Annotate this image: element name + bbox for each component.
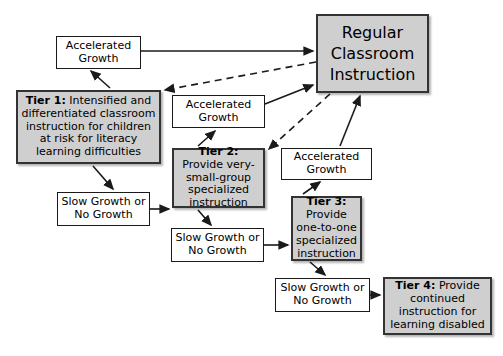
edge-tier3-to-accel3 bbox=[303, 182, 320, 194]
node-tier-2-label: Tier 2: bbox=[198, 145, 238, 158]
node-slow-growth-3-label: Slow Growth or No Growth bbox=[276, 282, 369, 308]
edge-regular-to-tier1 bbox=[165, 62, 316, 90]
edge-tier3-to-slow3 bbox=[310, 262, 325, 275]
edge-tier1-to-slow1 bbox=[93, 166, 113, 189]
node-regular-classroom-label: Regular Classroom Instruction bbox=[318, 22, 427, 85]
node-accelerated-growth-1-label: Accelerated Growth bbox=[57, 40, 140, 66]
node-slow-growth-2-label: Slow Growth or No Growth bbox=[172, 232, 263, 258]
node-tier-4[interactable]: Tier 4: Provide continued instruction fo… bbox=[383, 277, 492, 335]
node-tier-2[interactable]: Tier 2: Provide very-small-group special… bbox=[172, 148, 265, 208]
node-tier-3-label: Tier 3: bbox=[306, 195, 346, 208]
node-accelerated-growth-3-label: Accelerated Growth bbox=[282, 151, 371, 177]
node-tier-1[interactable]: Tier 1: Intensified and differentiated c… bbox=[16, 90, 161, 164]
node-regular-classroom-instruction[interactable]: Regular Classroom Instruction bbox=[316, 14, 429, 93]
node-tier-2-body: Provide very-small-group specialized ins… bbox=[182, 158, 254, 210]
node-accelerated-growth-2[interactable]: Accelerated Growth bbox=[172, 95, 265, 128]
node-accelerated-growth-3[interactable]: Accelerated Growth bbox=[281, 148, 372, 180]
node-slow-growth-3[interactable]: Slow Growth or No Growth bbox=[275, 278, 370, 312]
edge-tier1-to-accel1 bbox=[91, 71, 110, 88]
edge-accel2-to-regular bbox=[265, 85, 313, 104]
node-tier-3[interactable]: Tier 3: Provide one-to-one specialized i… bbox=[291, 196, 362, 261]
node-accelerated-growth-2-label: Accelerated Growth bbox=[173, 99, 264, 125]
node-tier-3-text: Tier 3: Provide one-to-one specialized i… bbox=[293, 196, 360, 261]
node-tier-3-body: Provide one-to-one specialized instructi… bbox=[296, 208, 357, 260]
node-slow-growth-2[interactable]: Slow Growth or No Growth bbox=[171, 228, 264, 262]
node-tier-1-label: Tier 1: bbox=[26, 94, 66, 107]
node-tier-2-text: Tier 2: Provide very-small-group special… bbox=[174, 146, 263, 211]
node-tier-4-text: Tier 4: Provide continued instruction fo… bbox=[385, 280, 490, 332]
edge-regular-to-tier2 bbox=[269, 94, 330, 149]
node-tier-1-text: Tier 1: Intensified and differentiated c… bbox=[18, 95, 159, 160]
node-slow-growth-1[interactable]: Slow Growth or No Growth bbox=[57, 192, 150, 226]
edge-tier2-to-slow2 bbox=[198, 210, 211, 225]
node-accelerated-growth-1[interactable]: Accelerated Growth bbox=[56, 36, 141, 69]
edge-accel3-to-regular bbox=[340, 96, 360, 146]
node-tier-4-label: Tier 4: bbox=[395, 279, 435, 292]
diagram-canvas: Regular Classroom Instruction Accelerate… bbox=[0, 0, 503, 356]
node-slow-growth-1-label: Slow Growth or No Growth bbox=[58, 196, 149, 222]
